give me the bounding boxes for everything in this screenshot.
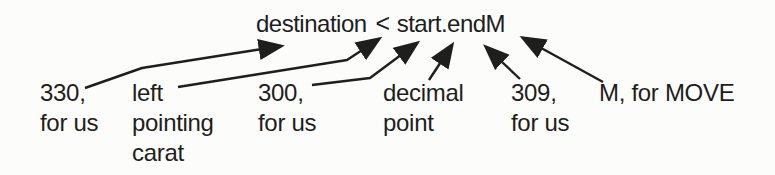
label-line: pointing — [132, 108, 214, 138]
command-syntax-line: destination < start . end M — [256, 8, 505, 39]
label-330-for-us: 330, for us — [40, 78, 98, 138]
label-decimal-point: decimal point — [383, 78, 464, 138]
label-309-for-us: 309, for us — [511, 78, 569, 138]
token-move-command: M — [486, 9, 506, 39]
token-destination: destination — [256, 9, 367, 39]
token-start: start — [397, 9, 441, 39]
diagram-page: destination < start . end M 330, for us … — [0, 0, 775, 175]
label-line: left — [132, 78, 214, 108]
label-line: decimal — [383, 78, 464, 108]
arrow-309-to-end — [486, 47, 520, 79]
label-m-for-move: M, for MOVE — [599, 78, 734, 108]
label-line: 330, — [40, 78, 98, 108]
label-line: for us — [511, 108, 569, 138]
label-line: for us — [258, 108, 316, 138]
label-300-for-us: 300, for us — [258, 78, 316, 138]
token-left-carat: < — [376, 8, 390, 38]
label-line: carat — [132, 138, 214, 168]
arrow-decimal-to-point — [429, 45, 452, 80]
label-left-pointing-carat: left pointing carat — [132, 78, 214, 168]
label-line: for us — [40, 108, 98, 138]
label-line: point — [383, 108, 464, 138]
arrow-move-to-m — [523, 38, 603, 82]
label-line: M, for MOVE — [599, 78, 734, 108]
label-line: 309, — [511, 78, 569, 108]
label-line: 300, — [258, 78, 316, 108]
token-end: end — [447, 9, 486, 39]
